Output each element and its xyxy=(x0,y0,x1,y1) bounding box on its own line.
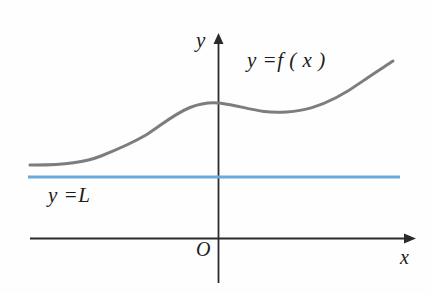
y-axis-label: y xyxy=(196,28,205,53)
limit-label: y =L xyxy=(48,183,90,208)
figure-canvas xyxy=(0,0,431,293)
x-axis-arrow-icon xyxy=(404,234,416,244)
y-axis-arrow-icon xyxy=(214,33,224,44)
function-label: y =f ( x ) xyxy=(247,48,326,73)
function-curve xyxy=(30,61,393,165)
limit-asymptote-figure: y x O y =f ( x ) y =L xyxy=(0,0,431,293)
origin-label: O xyxy=(196,238,210,261)
x-axis-label: x xyxy=(400,246,409,269)
